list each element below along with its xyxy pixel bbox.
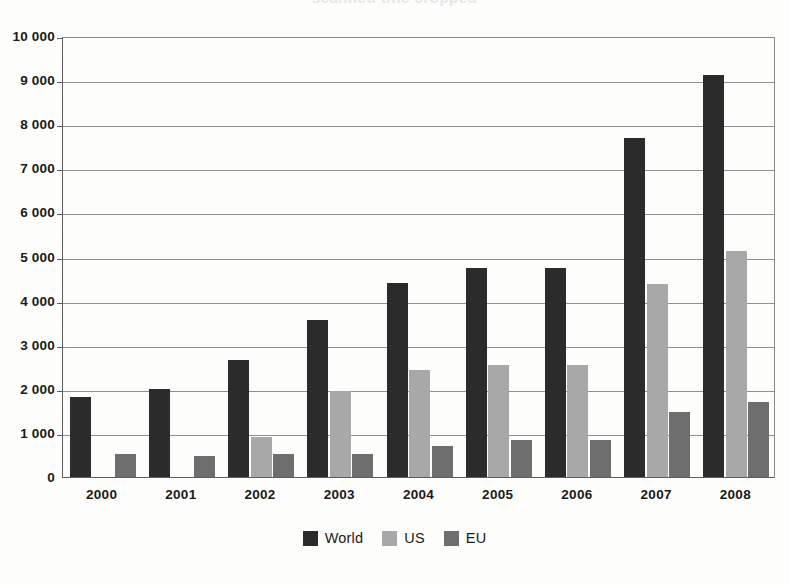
bar-group — [624, 38, 690, 477]
bar-group — [307, 38, 373, 477]
bar-eu-2003 — [352, 454, 373, 477]
bar-world-2008 — [703, 75, 724, 477]
bar-eu-2005 — [511, 440, 532, 477]
x-tick-label-2003: 2003 — [299, 487, 379, 502]
legend-label: EU — [466, 530, 487, 546]
bar-group — [70, 38, 136, 477]
legend-label: US — [404, 530, 425, 546]
bar-us-2007 — [647, 284, 668, 477]
bar-world-2005 — [466, 268, 487, 477]
bar-us-2006 — [567, 365, 588, 477]
x-tick-label-2000: 2000 — [62, 487, 142, 502]
y-tick-label: 8 000 — [0, 117, 55, 132]
square-swatch-icon — [303, 531, 318, 546]
x-tick-label-2006: 2006 — [537, 487, 617, 502]
y-tick-label: 3 000 — [0, 338, 55, 353]
x-tick-label-2008: 2008 — [695, 487, 775, 502]
bar-group — [387, 38, 453, 477]
bar-eu-2000 — [115, 454, 136, 477]
legend-item-eu[interactable]: EU — [444, 530, 487, 546]
square-swatch-icon — [444, 531, 459, 546]
legend-label: World — [325, 530, 364, 546]
x-axis: 200020012002200320042005200620072008 — [62, 487, 775, 509]
bar-us-2004 — [409, 370, 430, 477]
x-tick-label-2002: 2002 — [220, 487, 300, 502]
bar-group — [545, 38, 611, 477]
y-tick-label: 5 000 — [0, 250, 55, 265]
cropped-title-text: scanned title cropped — [312, 0, 478, 6]
square-swatch-icon — [382, 531, 397, 546]
bar-eu-2002 — [273, 454, 294, 477]
bar-chart: scanned title cropped 01 0002 0003 0004 … — [0, 0, 789, 584]
bar-groups — [63, 38, 774, 477]
bar-world-2007 — [624, 138, 645, 477]
bar-group — [149, 38, 215, 477]
legend-item-world[interactable]: World — [303, 530, 364, 546]
bar-us-2005 — [488, 365, 509, 477]
bar-world-2002 — [228, 360, 249, 477]
y-tick-label: 0 — [0, 470, 55, 485]
plot-area — [62, 37, 775, 478]
y-tick-label: 2 000 — [0, 382, 55, 397]
bar-group — [466, 38, 532, 477]
x-tick-label-2005: 2005 — [458, 487, 538, 502]
bar-eu-2004 — [432, 446, 453, 477]
bar-group — [228, 38, 294, 477]
bar-world-2001 — [149, 389, 170, 477]
chart-legend: WorldUSEU — [0, 530, 789, 546]
bar-us-2002 — [251, 437, 272, 477]
bar-us-2008 — [726, 251, 747, 477]
bar-world-2000 — [70, 397, 91, 477]
y-tick-label: 1 000 — [0, 426, 55, 441]
bar-world-2003 — [307, 320, 328, 477]
x-tick-label-2001: 2001 — [141, 487, 221, 502]
bar-group — [703, 38, 769, 477]
bar-eu-2008 — [748, 402, 769, 477]
bar-eu-2006 — [590, 440, 611, 477]
y-tick-label: 9 000 — [0, 73, 55, 88]
bar-eu-2001 — [194, 456, 215, 477]
bar-world-2006 — [545, 268, 566, 477]
y-tick-label: 4 000 — [0, 294, 55, 309]
x-tick-label-2004: 2004 — [379, 487, 459, 502]
cropped-title-remnant: scanned title cropped — [0, 0, 789, 14]
bar-us-2003 — [330, 391, 351, 477]
bar-world-2004 — [387, 283, 408, 477]
y-tick-label: 10 000 — [0, 29, 55, 44]
y-tick-label: 7 000 — [0, 161, 55, 176]
x-tick-label-2007: 2007 — [616, 487, 696, 502]
bar-eu-2007 — [669, 412, 690, 477]
y-tick-label: 6 000 — [0, 205, 55, 220]
legend-item-us[interactable]: US — [382, 530, 425, 546]
